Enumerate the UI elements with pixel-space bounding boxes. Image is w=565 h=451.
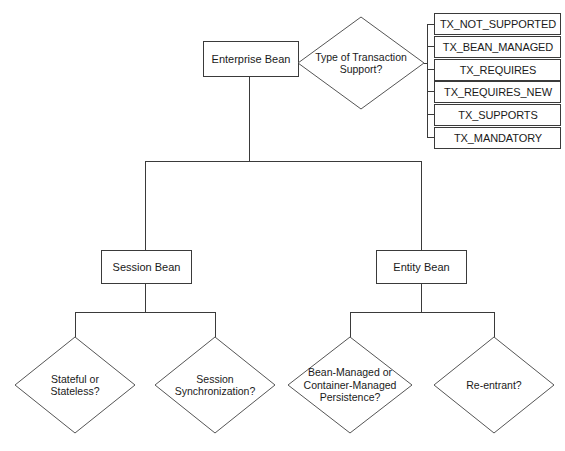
tx-option-box-5-shape [435,105,561,126]
tx-option-box-3-shape [435,60,561,81]
session-synchronization-diamond-shape [155,337,275,433]
tx-option-box-4-shape [435,82,561,103]
enterprise-bean-box-shape [204,42,299,77]
tx-option-box-1-shape [435,14,561,35]
diagram-canvas: Enterprise Bean Type of Transaction Supp… [0,0,565,451]
transaction-decision-diamond-shape [298,17,424,109]
stateful-stateless-diamond-shape [15,337,135,433]
tx-option-box-6-shape [435,128,561,149]
tx-option-box-2-shape [435,37,561,58]
entity-bean-box-shape [377,251,467,284]
session-bean-box-shape [102,251,192,284]
persistence-diamond-shape [288,337,412,433]
connector-layer [0,0,565,451]
reentrant-diamond-shape [434,337,554,433]
